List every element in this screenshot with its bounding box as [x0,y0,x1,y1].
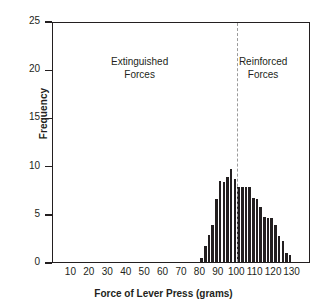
y-tick-label: 5 [6,208,40,219]
histogram-bar [211,225,214,262]
y-tick-mark [45,21,52,22]
histogram-bar [282,241,285,262]
histogram-bar [245,187,248,262]
histogram-bar [259,207,262,262]
histogram-bar [256,199,259,262]
histogram-bar [200,258,203,262]
y-tick-mark [45,262,52,263]
histogram-bar [267,218,270,262]
reinforced-forces-label: Reinforced Forces [213,55,313,81]
histogram-bar [278,236,281,262]
x-axis-title: Force of Lever Press (grams) [0,288,327,299]
y-tick-label: 0 [6,256,40,267]
histogram-bar [274,225,277,262]
histogram-bar [204,246,207,262]
histogram-bar [223,182,226,262]
x-tick-label: 130 [276,266,308,277]
y-tick-mark [45,166,52,167]
histogram-bar [208,235,211,262]
histogram-bar [263,217,266,262]
plot-area: Extinguished Forces Reinforced Forces [52,22,310,263]
histogram-bar [226,177,229,262]
extinguished-forces-label: Extinguished Forces [90,55,190,81]
histogram-bar [289,255,292,262]
histogram-bar [215,199,218,262]
histogram-bar [241,187,244,262]
y-tick-label: 15 [6,111,40,122]
histogram-bar [248,187,251,262]
y-tick-mark [45,214,52,215]
histogram-bar [285,253,288,262]
chart-figure: Frequency 0510152025 1020304050607080901… [0,0,327,306]
histogram-bar [270,218,273,262]
histogram-bar [234,179,237,262]
y-tick-mark [45,70,52,71]
y-tick-label: 25 [6,15,40,26]
histogram-bar [252,198,255,262]
y-tick-mark [45,118,52,119]
y-tick-label: 10 [6,160,40,171]
y-tick-label: 20 [6,63,40,74]
histogram-bar [230,169,233,263]
histogram-bar [219,181,222,262]
